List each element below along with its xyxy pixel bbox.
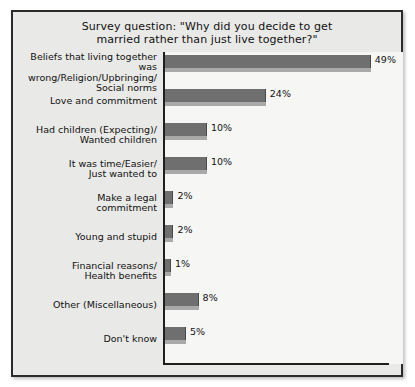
- bar-face: [165, 225, 173, 238]
- bar-row: It was time/Easier/ Just wanted to10%: [13, 154, 401, 188]
- bar-rows: Beliefs that living together was wrong/R…: [13, 52, 401, 364]
- bar-face: [165, 191, 173, 204]
- bar-row: Don't know5%: [13, 324, 401, 358]
- bar-face: [165, 89, 266, 102]
- bar-category-label: Had children (Expecting)/ Wanted childre…: [17, 125, 157, 146]
- bar-value-label: 49%: [375, 54, 396, 65]
- bar: [165, 293, 199, 311]
- chart-panel: Survey question: "Why did you decide to …: [11, 10, 403, 377]
- bar-row: Make a legal commitment2%: [13, 188, 401, 222]
- bar: [165, 259, 171, 277]
- bar-shadow: [165, 170, 207, 174]
- bar-row: Had children (Expecting)/ Wanted childre…: [13, 120, 401, 154]
- bar-category-label: Make a legal commitment: [17, 193, 157, 214]
- bar-face: [165, 55, 371, 68]
- bar: [165, 327, 186, 345]
- bar-shadow: [165, 272, 171, 276]
- bar-shadow: [165, 238, 173, 242]
- bar-shadow: [165, 204, 173, 208]
- bar: [165, 89, 266, 107]
- bar-value-label: 5%: [190, 326, 205, 337]
- bar-face: [165, 157, 207, 170]
- bar-category-label: Don't know: [17, 334, 157, 345]
- chart-title: Survey question: "Why did you decide to …: [13, 21, 401, 46]
- bar-value-label: 2%: [177, 190, 192, 201]
- bar-face: [165, 259, 171, 272]
- bar-face: [165, 123, 207, 136]
- bar: [165, 157, 207, 175]
- bar-category-label: It was time/Easier/ Just wanted to: [17, 159, 157, 180]
- bar-shadow: [165, 136, 207, 140]
- bar-value-label: 8%: [203, 292, 218, 303]
- bar-shadow: [165, 306, 199, 310]
- bar-value-label: 10%: [211, 156, 232, 167]
- bar-category-label: Young and stupid: [17, 232, 157, 243]
- bar-shadow: [165, 68, 371, 72]
- bar-row: Young and stupid2%: [13, 222, 401, 256]
- bar-category-label: Love and commitment: [17, 96, 157, 107]
- bar: [165, 123, 207, 141]
- bar-shadow: [165, 340, 186, 344]
- bar: [165, 191, 173, 209]
- bar-row: Love and commitment24%: [13, 86, 401, 120]
- bar-value-label: 2%: [177, 224, 192, 235]
- bar-face: [165, 327, 186, 340]
- bar-row: Beliefs that living together was wrong/R…: [13, 52, 401, 86]
- bar-shadow: [165, 102, 266, 106]
- bar-face: [165, 293, 199, 306]
- bar-row: Other (Miscellaneous)8%: [13, 290, 401, 324]
- bar: [165, 225, 173, 243]
- bar: [165, 55, 371, 73]
- bar-row: Financial reasons/ Health benefits1%: [13, 256, 401, 290]
- bar-category-label: Financial reasons/ Health benefits: [17, 261, 157, 282]
- bar-value-label: 1%: [175, 258, 190, 269]
- bar-value-label: 10%: [211, 122, 232, 133]
- bar-value-label: 24%: [270, 88, 291, 99]
- bar-category-label: Other (Miscellaneous): [17, 300, 157, 311]
